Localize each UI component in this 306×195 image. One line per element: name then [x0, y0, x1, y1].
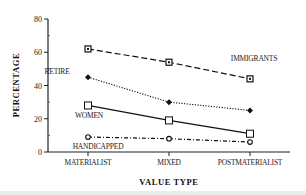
series-lines [85, 46, 254, 144]
series-label-immigrants: IMMIGRANTS [231, 54, 277, 63]
series-label-retire: RETIRE [44, 67, 70, 76]
series-women [85, 102, 254, 137]
y-tick-label: 20 [34, 115, 42, 124]
marker-dot [87, 48, 89, 50]
series-immigrants [85, 46, 253, 82]
diamond-marker-icon [247, 107, 253, 113]
diamond-marker-icon [166, 99, 172, 105]
y-tick-label: 80 [34, 15, 42, 24]
diamond-marker-icon [85, 74, 91, 80]
circle-marker-icon [248, 140, 253, 145]
y-tick-label: 40 [34, 82, 42, 91]
y-tick-label: 0 [38, 148, 42, 157]
x-axis-ticks: MATERIALISTMIXEDPOSTMATERIALIST [65, 152, 283, 167]
series-retire [85, 74, 253, 113]
circle-marker-icon [86, 135, 91, 140]
line-chart: 020406080 MATERIALISTMIXEDPOSTMATERIALIS… [0, 0, 306, 195]
series-line [88, 77, 250, 110]
series-label-handicapped: HANDICAPPED [73, 142, 125, 151]
square-marker-icon [166, 117, 173, 124]
x-tick-label: POSTMATERIALIST [218, 158, 283, 167]
x-tick-label: MIXED [157, 158, 181, 167]
marker-dot [168, 61, 170, 63]
circle-marker-icon [167, 136, 172, 141]
x-axis-title: VALUE TYPE [139, 177, 198, 187]
square-marker-icon [85, 102, 92, 109]
series-labels: IMMIGRANTSRETIREWOMENHANDICAPPED [44, 54, 277, 151]
bottom-band [0, 191, 306, 195]
square-marker-icon [247, 130, 254, 137]
x-tick-label: MATERIALIST [65, 158, 113, 167]
series-label-women: WOMEN [75, 111, 104, 120]
y-axis-title: PERCENTAGE [11, 53, 21, 117]
y-tick-label: 60 [34, 48, 42, 57]
marker-dot [249, 78, 251, 80]
